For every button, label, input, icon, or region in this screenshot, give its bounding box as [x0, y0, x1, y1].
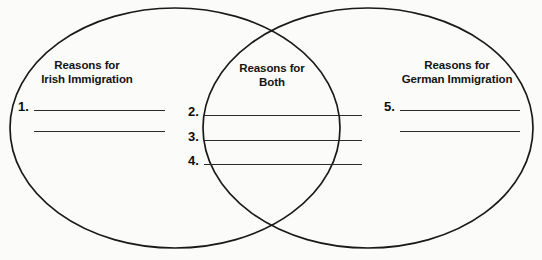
region-center-title-line-2: Both [212, 75, 332, 89]
answer-row-2[interactable]: 2. [188, 105, 366, 118]
answer-number-2: 2. [188, 105, 204, 118]
answer-row-1[interactable]: 1. [18, 100, 170, 113]
region-left-title-line-2: Irish Immigration [22, 72, 152, 86]
answer-row-1b[interactable] [18, 131, 170, 134]
answer-row-5b[interactable] [384, 131, 524, 134]
answer-line-4[interactable] [204, 164, 362, 165]
answer-number-4: 4. [188, 154, 204, 167]
left-ellipse-outline [10, 8, 340, 248]
answer-line-3[interactable] [204, 140, 362, 141]
answer-line-1[interactable] [34, 110, 165, 111]
region-right-title: Reasons for German Immigration [383, 58, 531, 86]
answer-row-5[interactable]: 5. [384, 100, 524, 113]
region-center-title: Reasons for Both [212, 61, 332, 89]
answer-line-1b[interactable] [34, 131, 165, 132]
region-left-title: Reasons for Irish Immigration [22, 58, 152, 86]
right-ellipse-outline [203, 8, 533, 248]
venn-diagram-worksheet: Reasons for Irish Immigration 1. Reasons… [0, 0, 542, 260]
region-left-title-line-1: Reasons for [22, 58, 152, 72]
region-center-title-line-1: Reasons for [212, 61, 332, 75]
answer-number-1: 1. [18, 100, 34, 113]
answer-line-5b[interactable] [400, 131, 520, 132]
answer-row-4[interactable]: 4. [188, 154, 366, 167]
answer-line-2[interactable] [204, 115, 362, 116]
answer-row-3[interactable]: 3. [188, 130, 366, 143]
region-right-title-line-1: Reasons for [383, 58, 531, 72]
region-right-title-line-2: German Immigration [383, 72, 531, 86]
answer-number-3: 3. [188, 130, 204, 143]
answer-line-5[interactable] [400, 110, 520, 111]
answer-number-5: 5. [384, 100, 400, 113]
